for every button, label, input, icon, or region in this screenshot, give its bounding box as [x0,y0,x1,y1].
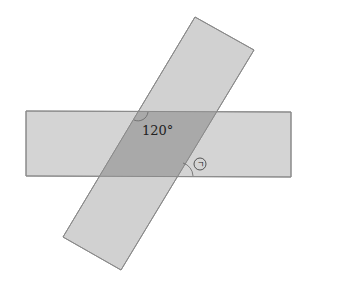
angle-label-120: 120° [142,123,173,138]
diagram-canvas: 120° ㄱ [0,0,355,294]
unknown-angle-label: ㄱ [197,160,204,169]
